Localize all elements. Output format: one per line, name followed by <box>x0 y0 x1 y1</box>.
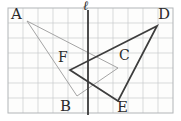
mirror-line-label: ℓ <box>83 0 88 12</box>
vertex-label-d: D <box>158 7 170 22</box>
geometry-svg <box>0 0 181 121</box>
vertex-label-c: C <box>119 48 130 62</box>
vertex-label-e: E <box>117 100 128 115</box>
vertex-label-f: F <box>58 50 68 64</box>
geometry-figure: A D F C B E ℓ <box>0 0 181 121</box>
vertex-label-a: A <box>11 7 22 22</box>
vertex-label-b: B <box>60 99 71 114</box>
